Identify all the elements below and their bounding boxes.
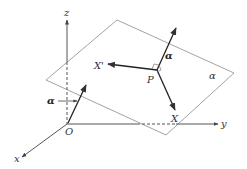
normal-at-P-label: α [165, 50, 173, 61]
vector-x [157, 70, 175, 110]
x-axis [22, 124, 67, 157]
y-axis-label: y [220, 118, 227, 129]
x-axis-label: x [14, 153, 20, 164]
x-prime-label: X' [93, 60, 104, 71]
vector-alpha-at-origin [68, 85, 86, 123]
vector-x-prime [108, 64, 157, 70]
plane-label: α [209, 70, 216, 81]
normal-at-origin-label: α [47, 95, 55, 106]
point-P-label: P [146, 74, 154, 85]
diagram-canvas: z y x O P α α X' X α [0, 0, 247, 169]
x-vector-label: X [170, 113, 179, 124]
plane-alpha [46, 20, 234, 135]
origin-label: O [65, 126, 73, 137]
vector-alpha-at-P [157, 28, 176, 70]
z-axis-label: z [63, 7, 70, 18]
